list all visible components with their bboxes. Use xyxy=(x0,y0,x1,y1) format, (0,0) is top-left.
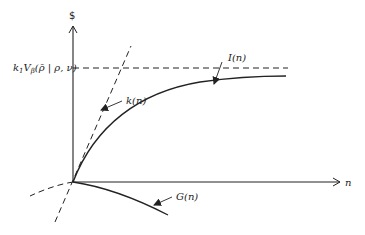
i-n-label: I(n) xyxy=(228,53,246,63)
i-n-extension xyxy=(30,182,73,196)
y-axis-label: $ xyxy=(69,11,75,21)
k-n-label: k(n) xyxy=(126,96,146,106)
asymptote-v: V xyxy=(24,62,31,73)
g-n-label: G(n) xyxy=(176,192,198,202)
i-n-curve xyxy=(73,76,286,182)
g-n-pointer-arrow xyxy=(154,197,172,205)
g-n-curve xyxy=(73,182,168,215)
asymptote-label: k1Vβ(ρ̄ | ρ, ν) xyxy=(13,63,77,75)
i-n-pointer-arrow xyxy=(214,62,222,84)
x-axis-label: n xyxy=(345,178,351,188)
asymptote-args: (ρ̄ | ρ, ν) xyxy=(35,62,77,73)
k-n-pointer-arrow xyxy=(101,101,122,110)
